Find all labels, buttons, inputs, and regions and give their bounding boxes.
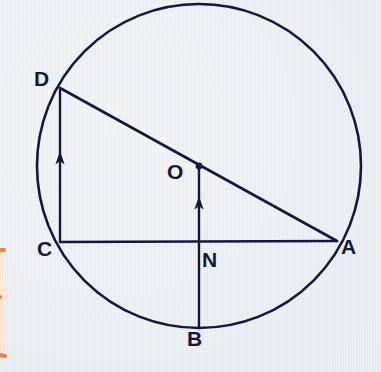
geometry-canvas — [0, 0, 381, 372]
centre-point-dot — [196, 163, 203, 170]
point-label-N: N — [202, 249, 217, 270]
point-label-O: O — [167, 161, 183, 182]
point-label-A: A — [341, 236, 356, 257]
geometry-figure: D C A B O N — [0, 0, 381, 372]
point-label-D: D — [34, 68, 49, 89]
point-label-C: C — [37, 238, 52, 259]
point-label-B: B — [187, 328, 202, 349]
